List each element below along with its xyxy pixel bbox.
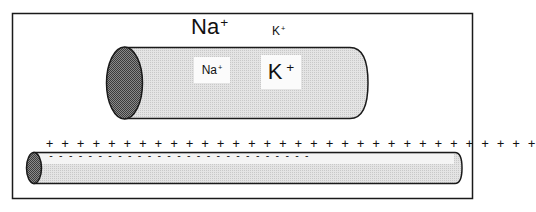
outside-na-charge: + [220,15,228,30]
outside-na-label: Na+ [191,16,228,38]
outside-na-ion: Na [191,14,219,39]
thin-axon-end-cap [27,153,42,184]
outside-k-ion: K [272,24,280,38]
large-axon-body [125,48,368,119]
inside-k-label: K+ [261,55,301,89]
inside-k-ion: K [268,59,283,84]
inside-na-ion: Na [202,63,217,77]
inside-na-label: Na+ [194,57,230,83]
inside-k-charge: + [286,60,294,75]
inside-negative-charges: - - - - - - - - - - - - - - - - - - - - … [48,151,309,161]
large-axon-end-cap [107,47,143,119]
outside-k-label: K+ [272,25,285,37]
outside-k-charge: + [281,24,285,33]
large-axon-cylinder [107,47,369,119]
outside-positive-charges: + + + + + + + + + + + + + + + + + + + + … [46,138,536,150]
inside-na-charge: + [218,63,222,72]
